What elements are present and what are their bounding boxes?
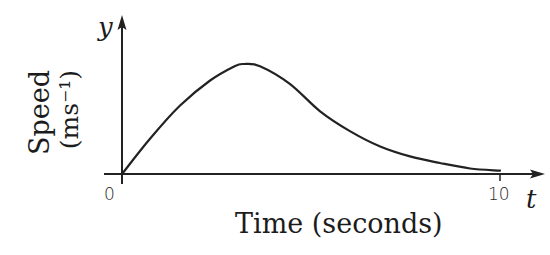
t-axis-variable-label: t: [526, 184, 536, 214]
origin-tick-label: 0: [104, 184, 115, 204]
y-axis-variable-label: y: [98, 12, 113, 42]
x-axis-label: Time (seconds): [235, 208, 443, 239]
speed-curve: [122, 64, 500, 174]
y-axis-label-line-1: Speed: [24, 63, 55, 163]
speed-time-chart: y t 0 10 Speed (ms⁻¹) Time (seconds): [0, 0, 550, 255]
x-tick-label-10: 10: [488, 184, 510, 204]
y-axis-label-line-2: (ms⁻¹): [55, 60, 84, 160]
